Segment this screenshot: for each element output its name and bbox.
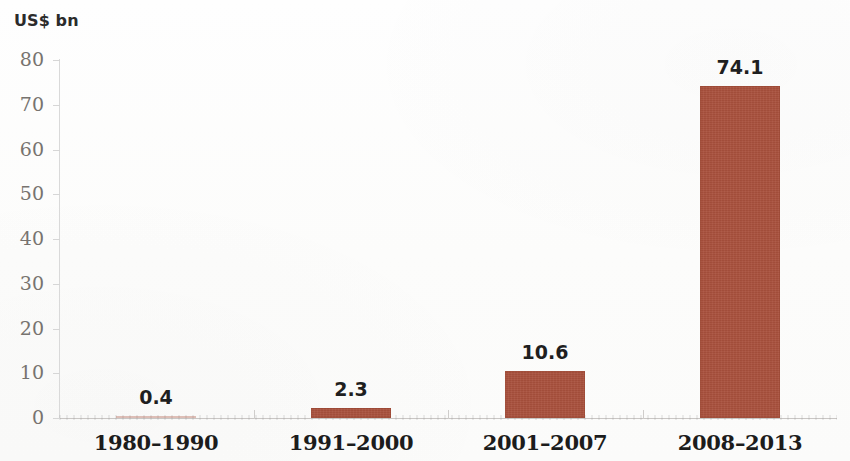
y-axis-tick [53, 418, 60, 419]
bar-value-label: 74.1 [680, 58, 800, 77]
x-axis-category-label: 2001–2007 [445, 432, 645, 453]
y-axis-tick-label: 10 [0, 363, 44, 382]
x-axis-tick [448, 410, 449, 419]
y-axis-tick-label: 40 [0, 229, 44, 248]
y-axis-unit-label: US$ bn [14, 11, 79, 30]
bar-value-label: 2.3 [291, 380, 411, 399]
y-axis-tick [53, 373, 60, 374]
bar [505, 371, 585, 418]
x-axis-tick [254, 410, 255, 419]
y-axis-tick-label: 20 [0, 319, 44, 338]
y-axis-tick [53, 105, 60, 106]
x-axis-category-label: 2008–2013 [640, 432, 840, 453]
y-axis-tick-label: 60 [0, 140, 44, 159]
y-axis-tick [53, 60, 60, 61]
bar [311, 408, 391, 418]
chart-canvas: US$ bn 01020304050607080 1980–19901991–2… [0, 0, 850, 461]
y-axis-tick [53, 284, 60, 285]
bar [116, 416, 196, 418]
y-axis-tick-label: 80 [0, 50, 44, 69]
y-axis-tick [53, 150, 60, 151]
x-axis-category-label: 1980–1990 [56, 432, 256, 453]
y-axis-tick-label: 30 [0, 274, 44, 293]
x-axis-category-label: 1991–2000 [251, 432, 451, 453]
y-axis-tick [53, 329, 60, 330]
y-axis-tick [53, 194, 60, 195]
y-axis-tick [53, 239, 60, 240]
bar-value-label: 10.6 [485, 343, 605, 362]
bar [700, 86, 780, 418]
x-axis-tick [643, 410, 644, 419]
y-axis-tick-label: 70 [0, 95, 44, 114]
y-axis-tick-label: 0 [0, 408, 44, 427]
y-axis-tick-label: 50 [0, 184, 44, 203]
bar-value-label: 0.4 [96, 388, 216, 407]
